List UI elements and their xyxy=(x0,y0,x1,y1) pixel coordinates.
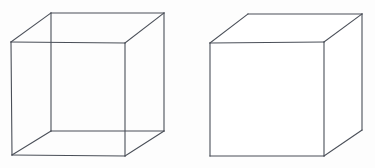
opaque-cube xyxy=(210,14,362,156)
opaque-cube-front-face xyxy=(210,42,324,156)
cube-figure-svg: Two cube line drawings Left: transparent… xyxy=(0,0,375,168)
figure-canvas: Two cube line drawings Left: transparent… xyxy=(0,0,375,168)
